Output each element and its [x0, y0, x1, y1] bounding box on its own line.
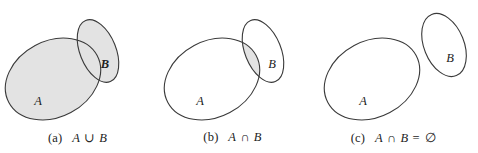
set-a-label: A — [33, 94, 42, 108]
panel-b-intersection: A B (b) A ∩ B A ∩ B — [155, 0, 310, 153]
panel-c-caption: (c) A ∩ B = ∅ A ∩ B = ∅ — [310, 130, 478, 146]
panel-c-left-set: A — [375, 131, 383, 145]
panel-a-operator: ∪ — [83, 131, 96, 145]
panel-b-tag: (b) — [203, 130, 218, 144]
set-a-ellipse-outline — [310, 22, 434, 130]
empty-set-symbol: ∅ — [424, 131, 437, 145]
panel-a-tag: (a) — [48, 131, 62, 145]
panel-a-right-set: B — [99, 131, 107, 145]
panel-c-operator: ∩ — [386, 131, 397, 145]
panel-c-caption-full: A ∩ B = ∅ — [437, 130, 438, 131]
panel-c-equals: = — [412, 131, 421, 145]
set-b-label: B — [100, 57, 109, 71]
panel-b-left-set: A — [228, 130, 236, 144]
set-b-label: B — [446, 51, 454, 65]
panel-b-operator: ∩ — [239, 130, 250, 144]
panel-b-diagram: A B — [155, 0, 310, 130]
set-a-ellipse-outline — [155, 22, 274, 130]
panel-c-right-set: B — [400, 131, 408, 145]
panel-a-caption-full: A ∪ B — [107, 130, 108, 131]
panel-b-right-set: B — [254, 130, 262, 144]
panel-b-caption: (b) A ∩ B A ∩ B — [155, 130, 310, 145]
panel-a-left-set: A — [72, 131, 80, 145]
panel-c-diagram: A B — [310, 0, 478, 130]
set-a-label: A — [195, 94, 204, 108]
panel-a-diagram: A B — [0, 0, 155, 130]
panel-c-disjoint: A B (c) A ∩ B = ∅ A ∩ B = ∅ — [310, 0, 478, 153]
venn-diagram-figure: A B (a) A ∪ B A ∪ B — [0, 0, 478, 153]
panel-c-tag: (c) — [351, 131, 365, 145]
set-a-label: A — [358, 94, 367, 108]
set-b-ellipse-outline — [413, 7, 475, 83]
intersection-region-fill — [234, 14, 292, 89]
set-b-ellipse-outline — [234, 14, 292, 89]
panel-a-union: A B (a) A ∪ B A ∪ B — [0, 0, 155, 153]
set-b-label: B — [268, 57, 276, 71]
panel-a-caption: (a) A ∪ B A ∪ B — [0, 130, 155, 146]
